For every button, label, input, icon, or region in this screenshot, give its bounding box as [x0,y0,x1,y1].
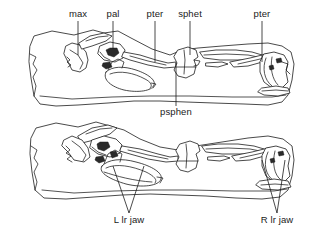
right-quadrate-complex-lower [262,146,290,182]
label-r-lr-jaw: R lr jaw [261,214,294,225]
label-sphet: sphet [178,8,202,19]
label-max: max [69,8,87,19]
upper-specimen-block [29,30,294,106]
right-quadrate-dark-spot1 [276,58,282,63]
specimen-line-drawing: max pal pter sphet pter psphen L lr jaw … [0,0,322,235]
lower-sphenethmoid [176,141,200,172]
lower-right-dark-spot2 [270,158,275,163]
label-l-lr-jaw: L lr jaw [114,214,145,225]
lower-specimen-block [30,122,294,199]
lower-right-dark-spot1 [278,151,284,156]
label-pter-2: pter [254,8,271,19]
right-quadrate-dark-spot2 [269,65,274,70]
upper-block-matrix-outline [29,30,294,106]
label-pter-1: pter [147,8,164,19]
sphenethmoid-bone [174,47,198,78]
label-pal: pal [107,8,120,19]
label-psphen: psphen [160,106,192,117]
figure-root: max pal pter sphet pter psphen L lr jaw … [0,0,322,235]
